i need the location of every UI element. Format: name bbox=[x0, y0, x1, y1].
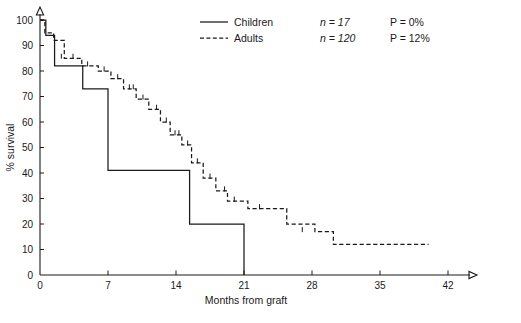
y-tick-label: 80 bbox=[22, 66, 34, 77]
y-tick-label: 90 bbox=[22, 40, 34, 51]
y-tick-label: 50 bbox=[22, 142, 34, 153]
legend-p-adults: P = 12% bbox=[390, 32, 430, 44]
x-axis-title: Months from graft bbox=[205, 294, 287, 306]
y-axis-arrowhead bbox=[36, 7, 43, 15]
legend-label-children: Children bbox=[234, 16, 273, 28]
y-tick-label: 100 bbox=[16, 15, 33, 26]
y-axis-title: % survival bbox=[4, 124, 16, 172]
figure-container: 0102030405060708090100 % survival 071421… bbox=[0, 0, 521, 323]
legend-n-children: n = 17 bbox=[320, 16, 351, 28]
x-tick-label: 7 bbox=[105, 280, 111, 291]
y-tick-label: 60 bbox=[22, 117, 34, 128]
x-tick-label: 42 bbox=[442, 280, 454, 291]
x-tick-label: 14 bbox=[170, 280, 182, 291]
x-axis-ticks: 071421283542 bbox=[37, 271, 454, 292]
y-tick-label: 40 bbox=[22, 168, 34, 179]
y-tick-label: 0 bbox=[27, 270, 33, 281]
y-tick-label: 10 bbox=[22, 244, 34, 255]
y-tick-label: 30 bbox=[22, 193, 34, 204]
x-tick-label: 21 bbox=[238, 280, 250, 291]
x-tick-label: 0 bbox=[37, 280, 43, 291]
legend-n-adults: n = 120 bbox=[320, 32, 355, 44]
survival-curve-adults bbox=[40, 20, 429, 244]
x-axis-group: 071421283542 Months from graft bbox=[37, 271, 477, 307]
survival-curves-group bbox=[40, 20, 429, 275]
x-axis-arrowhead bbox=[469, 271, 477, 278]
x-tick-label: 28 bbox=[306, 280, 318, 291]
legend-p-children: P = 0% bbox=[390, 16, 424, 28]
y-axis-group: 0102030405060708090100 % survival bbox=[4, 7, 44, 281]
legend-label-adults: Adults bbox=[234, 32, 263, 44]
legend: Children n = 17 P = 0% Adults n = 120 P … bbox=[200, 16, 430, 44]
y-tick-label: 70 bbox=[22, 91, 34, 102]
x-tick-label: 35 bbox=[374, 280, 386, 291]
y-tick-label: 20 bbox=[22, 219, 34, 230]
kaplan-meier-chart: 0102030405060708090100 % survival 071421… bbox=[0, 0, 521, 323]
